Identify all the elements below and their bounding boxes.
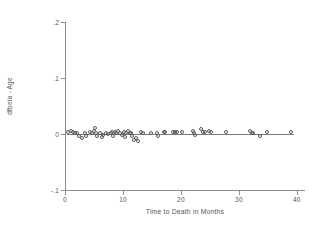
data-point-marker: [258, 134, 262, 138]
x-tick-mark: [239, 191, 240, 195]
data-point-marker: [149, 131, 153, 135]
y-tick-label: -.1: [37, 187, 59, 194]
y-axis-title: dfbeta - Age: [6, 66, 14, 126]
x-tick-label: 20: [169, 196, 193, 203]
x-axis-line: [65, 190, 305, 191]
data-point-marker: [180, 130, 184, 134]
x-tick-label: 0: [53, 196, 77, 203]
y-tick-label: .2: [37, 19, 59, 26]
data-point-marker: [84, 134, 88, 138]
x-axis-title: Time to Death in Months: [65, 207, 305, 216]
plot-data-area: [65, 22, 305, 190]
x-tick-label: 40: [285, 196, 309, 203]
data-point-marker: [93, 126, 97, 130]
x-tick-mark: [297, 191, 298, 195]
y-tick-label: 0: [37, 131, 59, 138]
data-point-marker: [175, 130, 179, 134]
data-point-marker: [136, 139, 140, 143]
data-point-marker: [123, 135, 127, 139]
y-tick-label: .1: [37, 75, 59, 82]
x-tick-mark: [65, 191, 66, 195]
data-point-marker: [289, 130, 293, 134]
data-point-marker: [141, 131, 145, 135]
data-point-marker: [163, 130, 167, 134]
data-point-marker: [224, 130, 228, 134]
data-point-marker: [209, 130, 213, 134]
x-tick-label: 30: [227, 196, 251, 203]
x-tick-mark: [181, 191, 182, 195]
x-tick-label: 10: [111, 196, 135, 203]
data-point-marker: [251, 131, 255, 135]
data-point-marker: [193, 133, 197, 137]
x-tick-mark: [123, 191, 124, 195]
scatter-plot-figure: .2.10-.1 010203040 dfbeta - Age Time to …: [0, 0, 326, 227]
data-point-marker: [265, 130, 269, 134]
data-point-marker: [156, 134, 160, 138]
